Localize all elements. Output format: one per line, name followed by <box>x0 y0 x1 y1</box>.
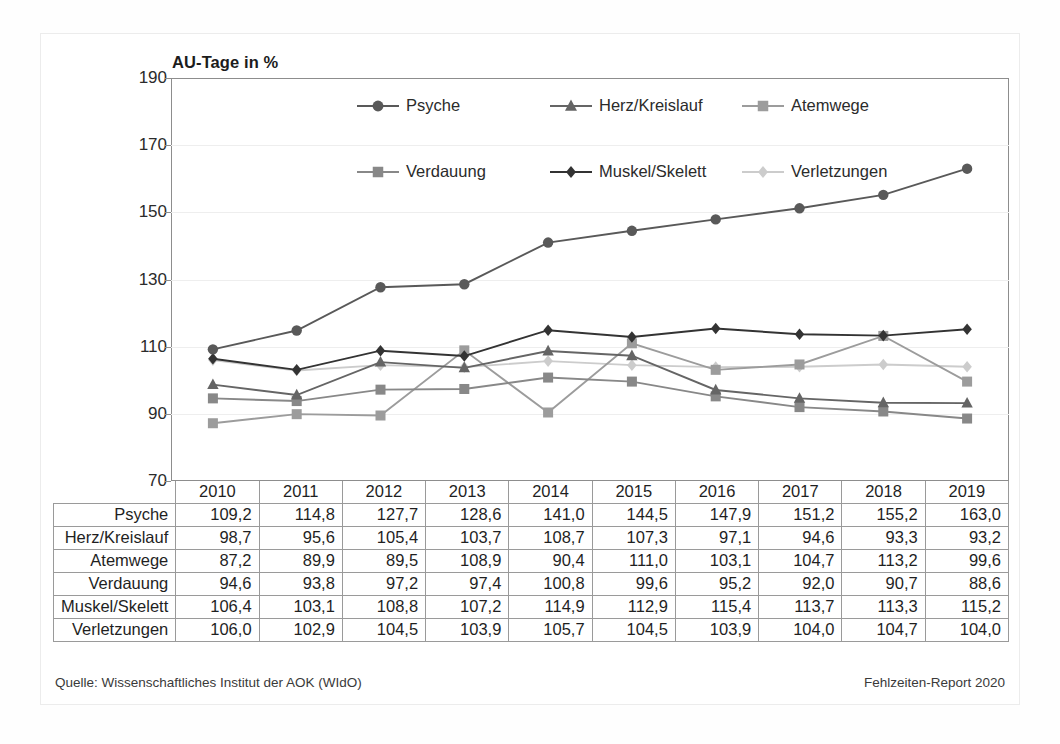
table-head: 2010201120122013201420152016201720182019 <box>54 481 1009 504</box>
table-cell: 141,0 <box>509 504 592 527</box>
table-cell: 88,6 <box>925 573 1008 596</box>
table-cell: 151,2 <box>759 504 842 527</box>
table-cell: 109,2 <box>176 504 259 527</box>
table-row-label: Herz/Kreislauf <box>54 527 176 550</box>
legend-item-atemwege[interactable]: Atemwege <box>742 96 869 115</box>
table-year-header: 2015 <box>592 481 675 504</box>
table-row: Atemwege87,289,989,5108,990,4111,0103,11… <box>54 550 1009 573</box>
table-year-header: 2017 <box>759 481 842 504</box>
table-row: Herz/Kreislauf98,795,6105,4103,7108,7107… <box>54 527 1009 550</box>
table-row-label: Verdauung <box>54 573 176 596</box>
table-cell: 103,9 <box>426 619 509 642</box>
table-cell: 106,4 <box>176 596 259 619</box>
table-cell: 108,9 <box>426 550 509 573</box>
plot-area: 7090110130150170190 PsycheHerz/Kreislauf… <box>171 78 1009 481</box>
table-cell: 97,1 <box>675 527 758 550</box>
table-year-header: 2018 <box>842 481 925 504</box>
table-cell: 104,7 <box>759 550 842 573</box>
table-cell: 127,7 <box>342 504 425 527</box>
y-tick-label: 110 <box>107 337 167 357</box>
figure-container: AU-Tage in % 7090110130150170190 PsycheH… <box>40 33 1020 705</box>
table-cell: 99,6 <box>592 573 675 596</box>
table-cell: 94,6 <box>176 573 259 596</box>
table-cell: 105,7 <box>509 619 592 642</box>
table-row-label: Atemwege <box>54 550 176 573</box>
table-row: Verdauung94,693,897,297,4100,899,695,292… <box>54 573 1009 596</box>
table-row-label: Verletzungen <box>54 619 176 642</box>
legend-marker-square-icon <box>357 163 399 181</box>
table-cell: 92,0 <box>759 573 842 596</box>
table-cell: 104,0 <box>759 619 842 642</box>
table-year-header: 2011 <box>259 481 342 504</box>
table-cell: 111,0 <box>592 550 675 573</box>
series-verletzungen <box>208 354 972 376</box>
source-note: Quelle: Wissenschaftliches Institut der … <box>55 675 362 690</box>
legend-marker-square-icon <box>742 97 784 115</box>
legend-label: Verletzungen <box>791 162 887 181</box>
table-cell: 103,7 <box>426 527 509 550</box>
table-header-row: 2010201120122013201420152016201720182019 <box>54 481 1009 504</box>
table-cell: 104,5 <box>592 619 675 642</box>
table-cell: 105,4 <box>342 527 425 550</box>
table-cell: 94,6 <box>759 527 842 550</box>
table-row: Psyche109,2114,8127,7128,6141,0144,5147,… <box>54 504 1009 527</box>
table-cell: 163,0 <box>925 504 1008 527</box>
legend-item-verletzungen[interactable]: Verletzungen <box>742 162 887 181</box>
table-cell: 103,1 <box>259 596 342 619</box>
table-cell: 108,7 <box>509 527 592 550</box>
table-cell: 98,7 <box>176 527 259 550</box>
legend-item-herz-kreislauf[interactable]: Herz/Kreislauf <box>550 96 703 115</box>
table-cell: 113,7 <box>759 596 842 619</box>
table-row-label: Psyche <box>54 504 176 527</box>
table-cell: 115,2 <box>925 596 1008 619</box>
table-cell: 114,8 <box>259 504 342 527</box>
table-cell: 95,2 <box>675 573 758 596</box>
legend-label: Herz/Kreislauf <box>599 96 703 115</box>
table-cell: 100,8 <box>509 573 592 596</box>
table-cell: 103,1 <box>675 550 758 573</box>
table-cell: 93,2 <box>925 527 1008 550</box>
table-cell: 106,0 <box>176 619 259 642</box>
table-row: Verletzungen106,0102,9104,5103,9105,7104… <box>54 619 1009 642</box>
table-cell: 97,2 <box>342 573 425 596</box>
series-muskel-skelett <box>208 323 972 376</box>
table-year-header: 2014 <box>509 481 592 504</box>
table-cell: 90,7 <box>842 573 925 596</box>
series-psyche <box>208 163 973 354</box>
data-table: 2010201120122013201420152016201720182019… <box>53 481 1009 642</box>
legend-marker-circle-icon <box>357 97 399 115</box>
table-cell: 107,2 <box>426 596 509 619</box>
series-verdauung <box>208 373 972 424</box>
table-cell: 90,4 <box>509 550 592 573</box>
report-note: Fehlzeiten-Report 2020 <box>864 675 1005 690</box>
table-cell: 144,5 <box>592 504 675 527</box>
legend-item-muskel-skelett[interactable]: Muskel/Skelett <box>550 162 706 181</box>
chart-legend: PsycheHerz/KreislaufAtemwege VerdauungMu… <box>357 96 957 170</box>
table-cell: 95,6 <box>259 527 342 550</box>
figure-footer: Quelle: Wissenschaftliches Institut der … <box>55 675 1005 690</box>
legend-label: Psyche <box>406 96 460 115</box>
table-cell: 102,9 <box>259 619 342 642</box>
table-row-label: Muskel/Skelett <box>54 596 176 619</box>
legend-item-verdauung[interactable]: Verdauung <box>357 162 486 181</box>
legend-item-psyche[interactable]: Psyche <box>357 96 460 115</box>
table-cell: 99,6 <box>925 550 1008 573</box>
chart-title: AU-Tage in % <box>172 53 278 72</box>
table-body: Psyche109,2114,8127,7128,6141,0144,5147,… <box>54 504 1009 642</box>
table-cell: 107,3 <box>592 527 675 550</box>
table-cell: 155,2 <box>842 504 925 527</box>
table-cell: 103,9 <box>675 619 758 642</box>
table-cell: 87,2 <box>176 550 259 573</box>
legend-marker-triangle-icon <box>550 97 592 115</box>
legend-label: Verdauung <box>406 162 486 181</box>
table-year-header: 2016 <box>675 481 758 504</box>
table-cell: 97,4 <box>426 573 509 596</box>
table-cell: 104,7 <box>842 619 925 642</box>
table-cell: 89,9 <box>259 550 342 573</box>
table-cell: 112,9 <box>592 596 675 619</box>
table-year-header: 2013 <box>426 481 509 504</box>
legend-row-2: VerdauungMuskel/SkelettVerletzungen <box>357 133 957 159</box>
table-year-header: 2019 <box>925 481 1008 504</box>
legend-label: Atemwege <box>791 96 869 115</box>
table-cell: 147,9 <box>675 504 758 527</box>
